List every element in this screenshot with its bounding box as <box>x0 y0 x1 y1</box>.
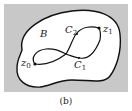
point-z0 <box>33 62 36 65</box>
point-z1 <box>97 26 100 29</box>
domain-diagram: B C2 C1 z0 z1 (b) <box>0 0 132 111</box>
region-label-B: B <box>39 28 47 39</box>
figure-caption: (b) <box>60 96 73 106</box>
figure: B C2 C1 z0 z1 (b) <box>0 0 132 111</box>
